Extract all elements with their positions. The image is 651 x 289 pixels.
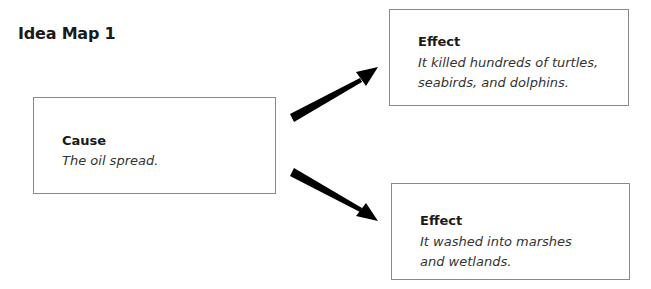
- arrow-down-right-icon: [290, 168, 378, 221]
- arrows: [0, 0, 651, 289]
- arrow-up-right-icon: [290, 67, 378, 122]
